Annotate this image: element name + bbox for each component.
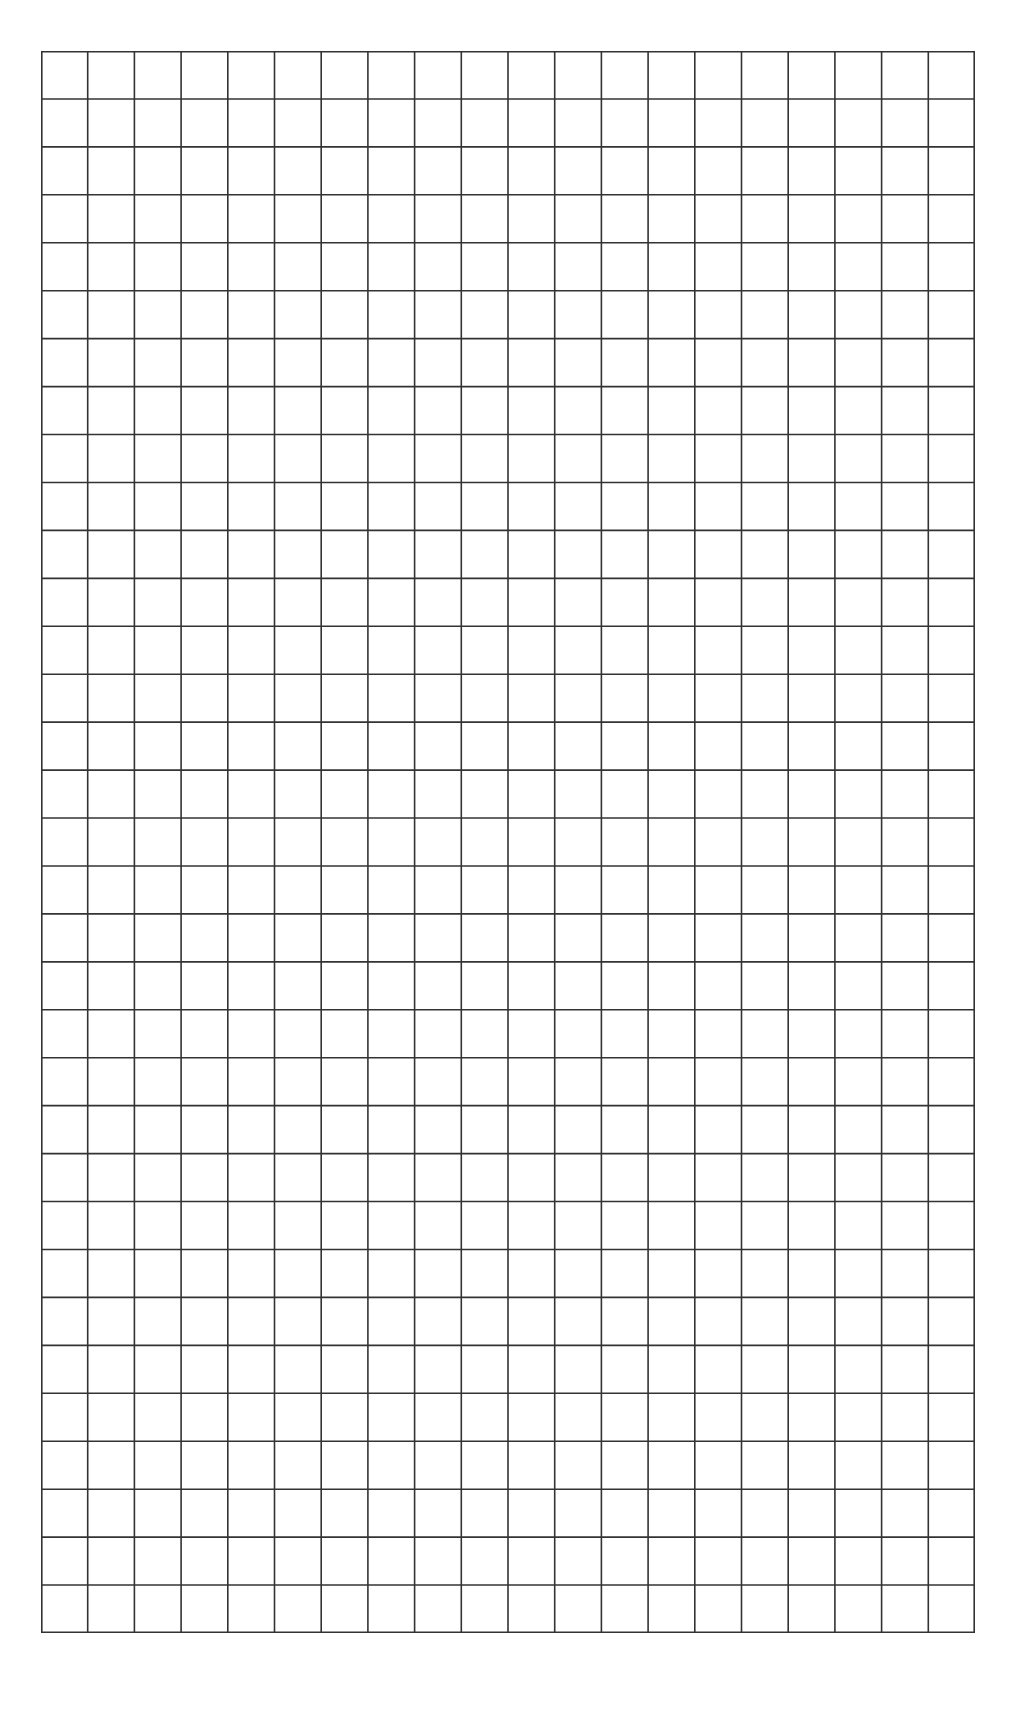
grid-lines bbox=[41, 51, 975, 1633]
graph-paper-grid bbox=[41, 51, 975, 1633]
